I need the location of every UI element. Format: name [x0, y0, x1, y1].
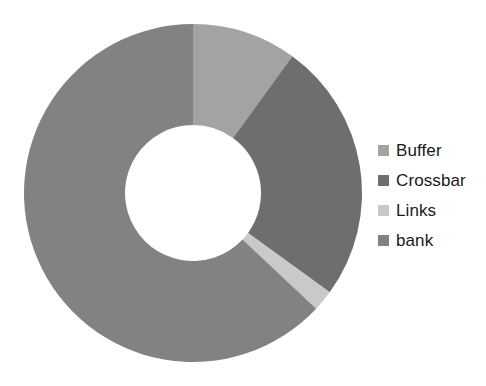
chart-page: BufferCrossbarLinksbank: [0, 0, 486, 386]
legend-item-links[interactable]: Links: [378, 200, 482, 221]
donut-chart-area: [0, 0, 372, 386]
legend-label-buffer: Buffer: [396, 141, 442, 160]
chart-legend: BufferCrossbarLinksbank: [378, 140, 482, 251]
legend-swatch-crossbar: [378, 175, 389, 186]
donut-chart-svg: [0, 0, 372, 386]
legend-label-bank: bank: [396, 231, 433, 250]
legend-swatch-buffer: [378, 145, 389, 156]
legend-item-bank[interactable]: bank: [378, 230, 482, 251]
legend-label-crossbar: Crossbar: [396, 171, 466, 190]
legend-swatch-links: [378, 205, 389, 216]
donut-slice-group: [24, 24, 362, 362]
legend-swatch-bank: [378, 235, 389, 246]
legend-item-buffer[interactable]: Buffer: [378, 140, 482, 161]
legend-item-crossbar[interactable]: Crossbar: [378, 170, 482, 191]
legend-label-links: Links: [396, 201, 436, 220]
